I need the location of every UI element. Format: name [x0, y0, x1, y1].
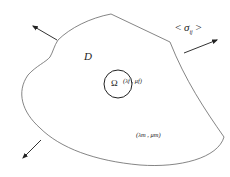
inclusion-properties: (λf , μf) [123, 78, 142, 85]
traction-arrow-bottom-left-icon [23, 140, 41, 158]
far-field-stress-label: < σij > [175, 22, 202, 35]
stress-open-bracket: < [175, 21, 181, 33]
traction-arrow-top-left-icon [33, 26, 57, 40]
domain-label: D [84, 51, 92, 62]
matrix-properties: (λm , μm) [136, 132, 161, 139]
traction-arrow-top-right-icon [184, 40, 217, 53]
inclusion-symbol: Ω [111, 79, 118, 88]
stress-close-bracket: > [196, 21, 202, 33]
stress-subscript: ij [189, 29, 192, 35]
